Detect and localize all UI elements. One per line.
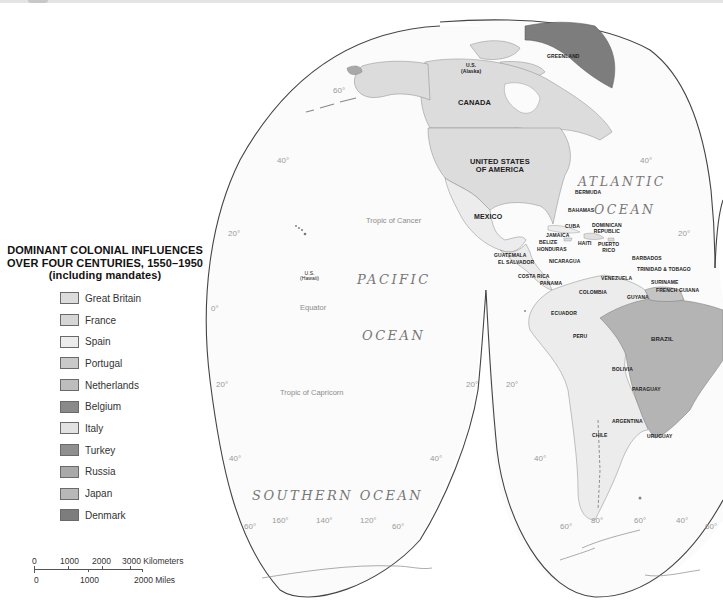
dominican-label-2: REPUBLIC [592,229,622,235]
guatemala-label: GUATEMALA [494,252,526,259]
scale-km-1000: 1000 [60,556,79,566]
mexico-label: MEXICO [474,213,502,220]
legend-title-line-2: OVER FOUR CENTURIES, 1550–1950 [0,257,210,270]
falkland-islands [639,497,642,500]
colombia-label: COLOMBIA [579,289,607,296]
lat-label-40n: 40° [277,156,289,165]
alaska-label-2: (Alaska) [461,69,481,75]
atlantic-ocean-label-2: OCEAN [594,202,655,217]
lat-label-60s-pacific-east: 60° [392,522,404,531]
swatch-netherlands [60,379,79,391]
jamaica-label: JAMAICA [546,232,569,239]
french-guiana-label: FRENCH GUIANA [656,287,699,294]
scale-tick [68,566,69,569]
alaska-label: U.S.(Alaska) [461,63,481,74]
greenland-label: GREENLAND [547,53,580,60]
panama-label: PANAMA [540,280,562,287]
costa-rica-label: COSTA RICA [518,273,550,280]
scale-km-0: 0 [32,556,37,566]
galapagos-islands [524,310,526,312]
scale-mi-2000: 2000 Miles [134,575,175,585]
swatch-portugal [60,357,79,369]
swatch-turkey [60,444,79,456]
scale-mi-1000: 1000 [80,575,99,585]
lat-label-60n: 60° [333,86,345,95]
southern-ocean-label: SOUTHERN OCEAN [252,488,423,503]
pacific-ocean-label: PACIFIC [357,272,431,287]
legend-label: Turkey [85,445,115,456]
tropic-of-capricorn-label: Tropic of Capricorn [280,388,344,397]
scale-tick [102,566,103,569]
lat-label-0: 0° [211,304,219,313]
lat-label-60s-atlantic-west: 60° [560,522,572,531]
legend-item-portugal: Portugal [60,353,210,375]
argentina-label: ARGENTINA [612,418,643,425]
swatch-spain [60,336,79,348]
trinidad-tobago-label: TRINIDAD & TOBAGO [637,266,691,273]
legend-title: DOMINANT COLONIAL INFLUENCES OVER FOUR C… [0,244,210,282]
scale-bar: 0 1000 2000 3000 Kilometers 0 1000 2000 … [30,556,190,592]
legend-item-italy: Italy [60,418,210,440]
lat-label-40s-pacific-west: 40° [229,454,241,463]
scale-tick [34,566,35,573]
swatch-great-britain [60,292,79,304]
legend-item-netherlands: Netherlands [60,374,210,396]
lat-label-20n-atlantic: 20° [678,229,690,238]
legend-item-great-britain: Great Britain [60,288,210,310]
legend-label: Spain [85,336,111,347]
lat-label-60s-pacific-west: 60° [244,522,256,531]
suriname-label: SURINAME [651,279,678,286]
alaska [354,61,430,100]
legend-title-line-1: DOMINANT COLONIAL INFLUENCES [0,244,210,257]
brazil-label: BRAZIL [651,336,674,343]
ecuador-label: ECUADOR [551,310,577,317]
legend-items: Great Britain France Spain Portugal Neth… [0,288,210,527]
scale-km-2000: 2000 [92,556,111,566]
usa-label: UNITED STATESOF AMERICA [470,158,530,174]
swatch-denmark [60,509,79,521]
legend-label: Belgium [85,401,121,412]
venezuela-label: VENEZUELA [601,275,632,282]
legend-label: Russia [85,466,116,477]
guyana-label: GUYANA [627,294,649,301]
swatch-belgium [60,401,79,413]
usa-label-2: OF AMERICA [470,166,530,174]
legend-label: Great Britain [85,293,141,304]
hawaii-label: U.S.(Hawaii) [300,271,319,281]
legend-label: Portugal [85,358,122,369]
lat-label-20s-atlantic: 20° [506,380,518,389]
bolivia-label: BOLIVIA [612,366,633,373]
puerto-rico-label-2: RICO [598,248,619,254]
lat-label-40s-pacific-east: 40° [430,454,442,463]
legend-item-france: France [60,309,210,331]
legend-label: France [85,315,116,326]
scale-tick [142,569,143,572]
lat-label-20s-pacific-west: 20° [216,380,228,389]
lat-label-20s-pacific-east: 20° [466,380,478,389]
bermuda-label: BERMUDA [575,189,601,196]
legend-item-spain: Spain [60,331,210,353]
barbados-label: BARBADOS [632,255,662,262]
swatch-russia [60,466,79,478]
tropic-of-cancer-label: Tropic of Cancer [366,216,421,225]
pacific-ocean-label-2: OCEAN [362,328,425,343]
scale-tick [88,569,89,572]
hawaii-label-2: (Hawaii) [300,276,319,281]
legend-item-turkey: Turkey [60,439,210,461]
bahamas-label: BAHAMAS [568,207,594,214]
scale-mi-0: 0 [34,575,39,585]
uruguay-label: URUGUAY [647,433,673,440]
honduras-label: HONDURAS [537,246,567,253]
swatch-japan [60,488,79,500]
puerto-rico-label: PUERTORICO [598,242,619,253]
atlantic-ocean-label: ATLANTIC [578,174,666,189]
lon-label-60: 60° [634,516,646,525]
lat-label-40s-atlantic: 40° [534,454,546,463]
legend-label: Italy [85,423,103,434]
el-salvador-label: EL SALVADOR [498,259,534,266]
legend-item-denmark: Denmark [60,504,210,526]
legend-item-japan: Japan [60,483,210,505]
lon-label-80: 80° [591,516,603,525]
haiti-label: HAITI [578,240,592,247]
lon-label-160: 160° [272,516,289,525]
